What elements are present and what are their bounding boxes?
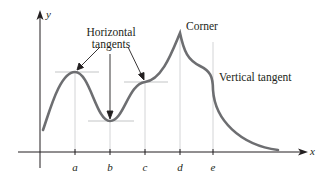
corner-label: Corner [186,20,218,32]
vertical-tangent-label: Vertical tangent [219,71,292,84]
tick-label-c: c [143,161,148,173]
tick-label-e: e [211,161,216,173]
diagram-canvas: Horizontal tangents Corner Vertical tang… [0,0,321,179]
tick-label-a: a [72,161,78,173]
tick-label-d: d [177,161,183,173]
function-curve [43,33,278,150]
tick-label-b: b [107,161,113,173]
horizontal-tangents-label-line1: Horizontal [86,26,135,38]
horizontal-tangents-label-line2: tangents [92,38,131,51]
y-axis-label: y [45,8,51,20]
x-axis-label: x [309,145,315,157]
